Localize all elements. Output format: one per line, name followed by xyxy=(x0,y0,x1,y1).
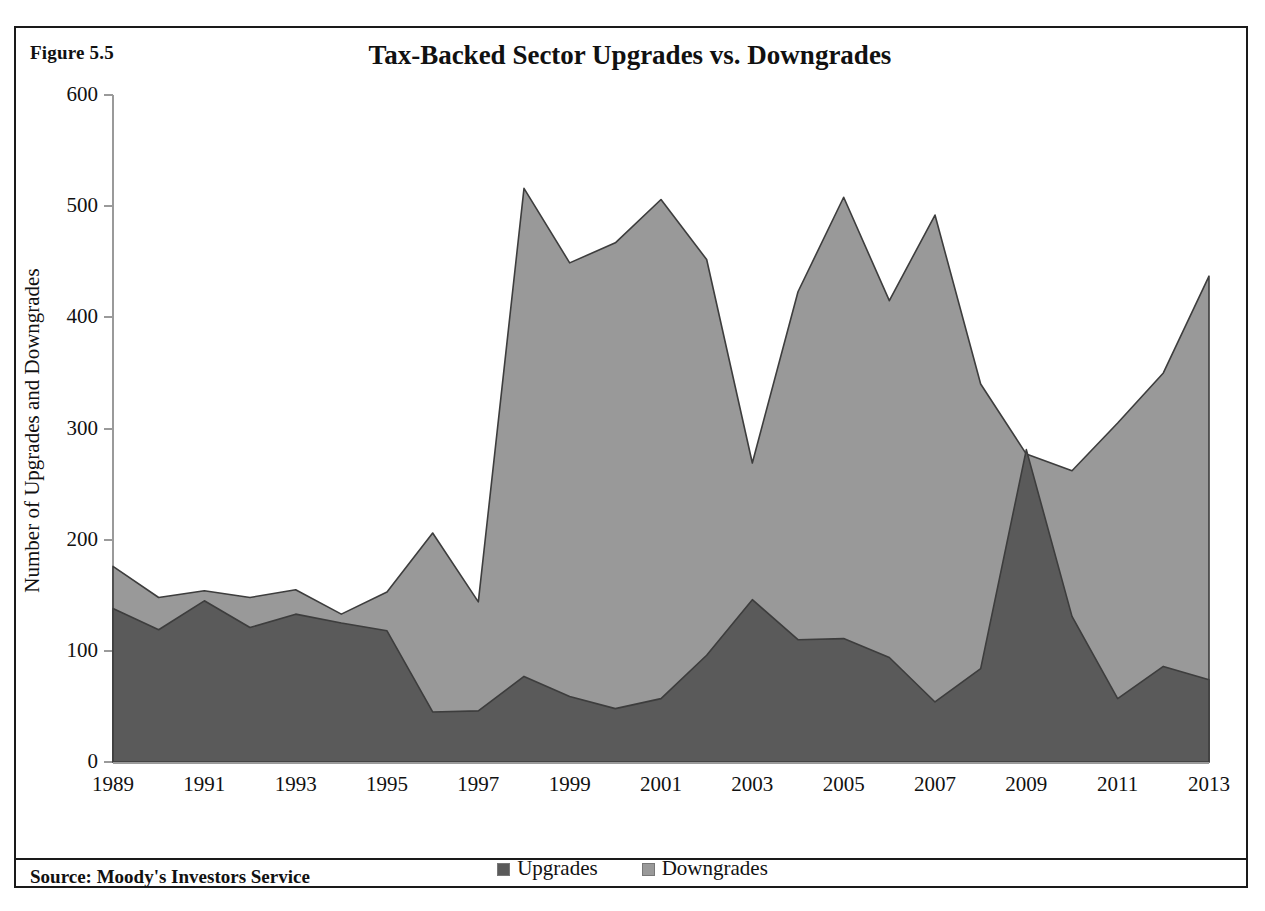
legend-item: Downgrades xyxy=(642,856,768,881)
x-tick-label: 1999 xyxy=(549,772,591,797)
source-note: Source: Moody's Investors Service xyxy=(30,866,310,888)
x-tick-label: 2001 xyxy=(640,772,682,797)
x-tick-label: 2013 xyxy=(1188,772,1230,797)
legend-swatch-icon xyxy=(497,863,510,876)
figure-page: Figure 5.5 Tax-Backed Sector Upgrades vs… xyxy=(0,0,1265,911)
x-tick-label: 1991 xyxy=(183,772,225,797)
x-tick-label: 1993 xyxy=(275,772,317,797)
x-tick-label: 2009 xyxy=(1005,772,1047,797)
x-tick-label: 2003 xyxy=(731,772,773,797)
legend-item: Upgrades xyxy=(497,856,597,881)
legend-swatch-icon xyxy=(642,863,655,876)
x-tick-label: 2011 xyxy=(1097,772,1138,797)
x-tick-label: 1995 xyxy=(366,772,408,797)
x-tick-label: 2007 xyxy=(914,772,956,797)
x-tick-label: 2005 xyxy=(823,772,865,797)
x-tick-label: 1989 xyxy=(92,772,134,797)
legend-label: Downgrades xyxy=(662,856,768,880)
legend-label: Upgrades xyxy=(517,856,597,880)
x-tick-label: 1997 xyxy=(457,772,499,797)
